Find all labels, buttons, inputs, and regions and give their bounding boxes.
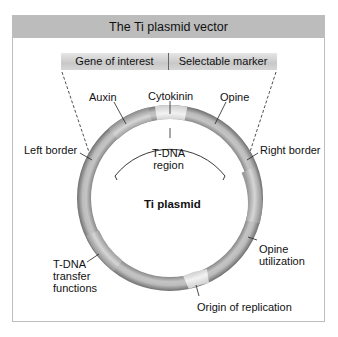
label-opine-utilization: Opine utilization [259,243,305,267]
label-auxin: Auxin [89,91,117,103]
opine-utilization-segment [248,170,255,222]
label-opine: Opine [220,91,249,103]
label-right-border: Right border [260,144,321,156]
label-cytokinin: Cytokinin [148,90,193,102]
label-left-border: Left border [24,144,77,156]
label-tdna-transfer-functions: T-DNA transfer functions [53,258,97,294]
cytokinin-segment [156,112,186,114]
auxin-segment [113,114,150,134]
label-origin-of-replication: Origin of replication [197,301,292,313]
origin-segment [186,276,208,283]
label-ti-plasmid: Ti plasmid [144,198,201,210]
label-tdna-region: T-DNA region [152,147,185,171]
